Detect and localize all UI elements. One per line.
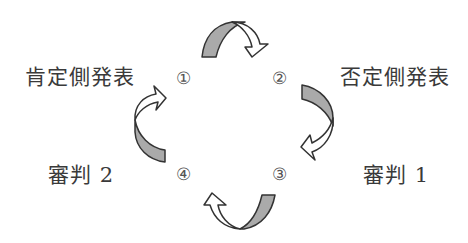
step-1-marker: ① bbox=[176, 68, 191, 88]
curved-arrow-top-icon bbox=[202, 22, 268, 57]
curved-arrow-bottom-icon bbox=[204, 193, 275, 229]
step-3-marker: ③ bbox=[272, 164, 287, 184]
step-4-marker: ④ bbox=[176, 164, 191, 184]
curved-arrow-right-icon bbox=[301, 85, 333, 160]
curved-arrow-left-icon bbox=[135, 86, 166, 162]
negative-presentation-label: 否定側発表 bbox=[340, 65, 450, 89]
affirmative-presentation-label: 肯定側発表 bbox=[25, 65, 135, 89]
judge-2-label: 審判 2 bbox=[48, 163, 114, 187]
judge-1-label: 審判 1 bbox=[363, 163, 429, 187]
cycle-arrows bbox=[0, 0, 468, 243]
step-2-marker: ② bbox=[272, 68, 287, 88]
